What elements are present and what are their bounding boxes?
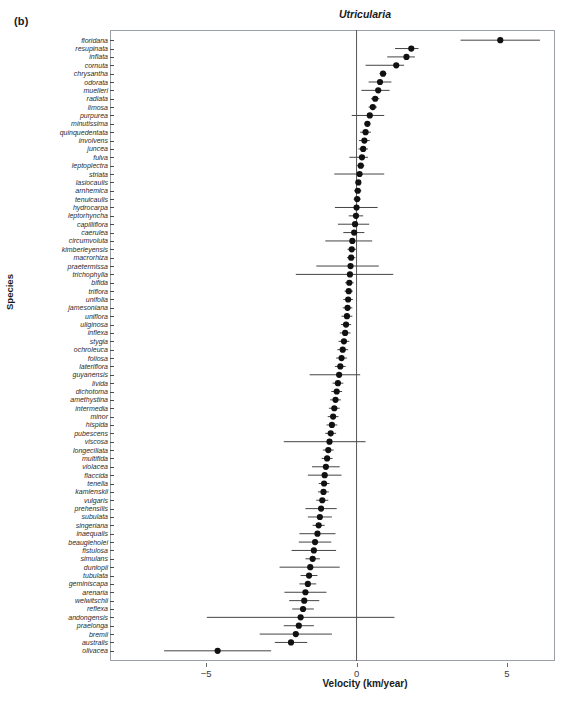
y-tick-mark [110,207,114,208]
data-point [323,464,329,470]
y-tick-label: livida [20,380,108,387]
panel-letter: (b) [14,15,29,27]
y-tick-mark [110,425,114,426]
y-tick-label: leptoplectra [20,162,108,169]
y-tick-mark [110,182,114,183]
y-tick-mark [110,651,114,652]
y-tick-mark [110,634,114,635]
data-point [348,255,354,261]
y-tick-mark [110,57,114,58]
y-tick-label: olivacea [20,647,108,654]
data-point [346,280,352,286]
data-point [347,271,353,277]
y-tick-mark [110,82,114,83]
y-tick-mark [110,233,114,234]
y-tick-mark [110,576,114,577]
data-point [345,296,351,302]
y-tick-mark [110,149,114,150]
y-tick-label: tubulata [20,572,108,579]
y-tick-label: inaequalis [20,530,108,537]
data-point [328,430,334,436]
y-tick-mark [110,517,114,518]
y-tick-label: resupinata [20,45,108,52]
y-tick-mark [110,509,114,510]
y-tick-mark [110,417,114,418]
y-tick-mark [110,241,114,242]
y-tick-mark [110,408,114,409]
y-tick-mark [110,484,114,485]
y-tick-mark [110,609,114,610]
y-tick-label: beaugleholei [20,539,108,546]
data-point [318,506,324,512]
data-point [329,422,335,428]
x-tick-mark [507,663,508,667]
data-point [305,581,311,587]
data-point [353,204,359,210]
y-tick-mark [110,350,114,351]
y-tick-label: tenuicaulis [20,196,108,203]
y-tick-mark [110,534,114,535]
y-tick-mark [110,132,114,133]
data-point [344,305,350,311]
y-tick-mark [110,433,114,434]
y-tick-mark [110,291,114,292]
y-tick-label: tenella [20,480,108,487]
y-tick-label: arenaria [20,589,108,596]
data-point [347,263,353,269]
y-tick-label: limosa [20,104,108,111]
y-tick-label: dichotoma [20,388,108,395]
data-point [349,246,355,252]
y-tick-label: muelleri [20,87,108,94]
y-tick-mark [110,166,114,167]
data-point [349,238,355,244]
data-point [316,522,322,528]
data-point [372,96,378,102]
y-tick-label: lateriflora [20,363,108,370]
y-tick-mark [110,191,114,192]
y-tick-mark [110,358,114,359]
y-tick-mark [110,584,114,585]
data-point [319,497,325,503]
data-point [342,330,348,336]
y-tick-mark [110,266,114,267]
y-tick-mark [110,74,114,75]
y-tick-mark [110,157,114,158]
y-tick-label: floridana [20,37,108,44]
data-point [364,121,370,127]
x-tick-mark [357,663,358,667]
y-axis-tick-labels: floridanaresupinatainflatacornutachrysan… [20,30,108,661]
y-tick-label: jamesoniana [20,304,108,311]
y-tick-label: kamienskii [20,488,108,495]
data-point [301,598,307,604]
y-tick-label: cornuta [20,62,108,69]
data-point [408,45,414,51]
y-tick-mark [110,65,114,66]
y-tick-mark [110,601,114,602]
y-tick-label: lasiocaulis [20,179,108,186]
y-tick-label: andongensis [20,614,108,621]
y-tick-mark [110,325,114,326]
y-tick-mark [110,366,114,367]
data-point [307,564,313,570]
y-tick-mark [110,274,114,275]
data-point [340,347,346,353]
data-point [321,480,327,486]
y-tick-mark [110,316,114,317]
data-point [320,489,326,495]
y-tick-mark [110,450,114,451]
y-tick-label: purpurea [20,112,108,119]
y-tick-label: unifolia [20,296,108,303]
y-tick-label: praetermissa [20,263,108,270]
y-tick-mark [110,383,114,384]
y-tick-label: bremii [20,631,108,638]
y-tick-label: vulgaris [20,497,108,504]
y-tick-label: arnhemica [20,187,108,194]
data-point [341,338,347,344]
y-tick-mark [110,124,114,125]
y-tick-mark [110,249,114,250]
y-tick-label: dunlopii [20,564,108,571]
data-point [362,129,368,135]
y-tick-label: quinquedentata [20,129,108,136]
y-tick-mark [110,559,114,560]
y-tick-label: pubescens [20,430,108,437]
